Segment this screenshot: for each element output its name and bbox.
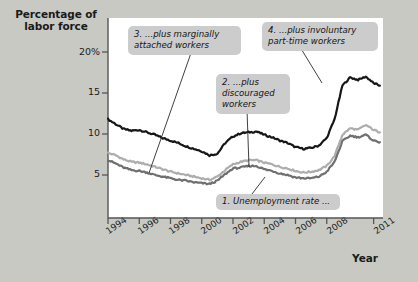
leader-line-3 bbox=[149, 53, 191, 173]
chart-figure: Percentage of labor force Year 20% 15 10… bbox=[0, 0, 418, 282]
callout-discouraged-workers: 2. ...plus discouraged workers bbox=[216, 74, 290, 114]
callout-marginally-attached: 3. ...plus marginally attached workers bbox=[128, 26, 241, 55]
leader-line-4 bbox=[300, 47, 322, 83]
callout-unemployment-rate: 1. Unemployment rate ... bbox=[216, 194, 340, 210]
x-tick-marks bbox=[108, 218, 374, 224]
leader-line-2 bbox=[247, 110, 249, 167]
callout-involuntary-part-time: 4. ...plus involuntary part-time workers bbox=[262, 22, 378, 51]
y-tick-marks bbox=[102, 52, 108, 175]
leader-line-1 bbox=[252, 177, 265, 194]
